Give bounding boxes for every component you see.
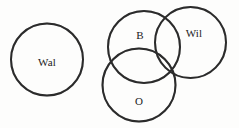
set-circle-o: [103, 49, 176, 122]
set-label-wil: Wil: [186, 28, 203, 39]
set-circle-b: [108, 11, 180, 83]
venn-diagram-canvas: Wal B Wil O: [0, 0, 239, 128]
set-label-b: B: [136, 30, 144, 41]
set-circle-wil: [155, 7, 226, 78]
set-label-o: O: [135, 96, 143, 107]
venn-diagram-svg: [0, 0, 239, 128]
set-label-wal: Wal: [38, 57, 56, 68]
